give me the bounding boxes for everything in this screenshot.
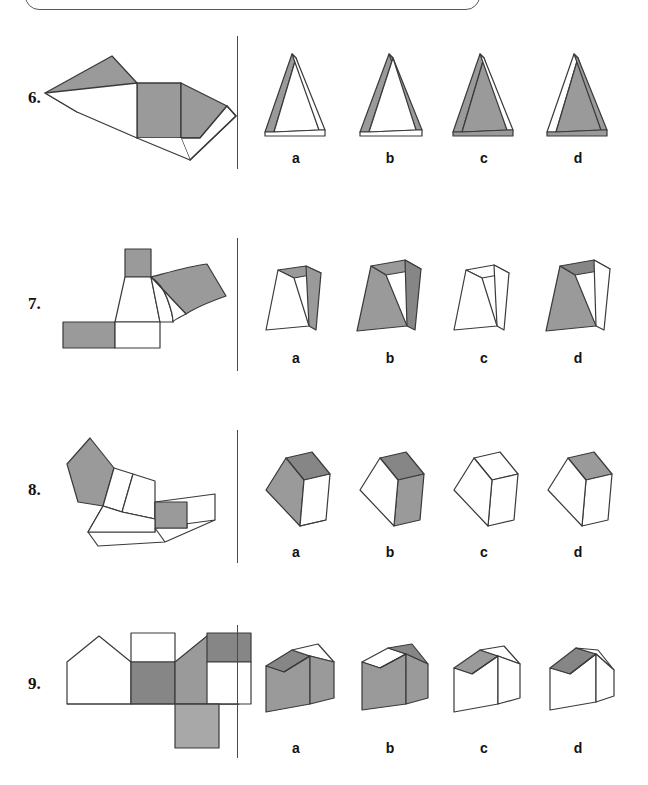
house-right-face: [310, 656, 334, 704]
option-label-9d: d: [566, 740, 590, 756]
net-figure-9: [58, 614, 248, 754]
option-figure-7b[interactable]: [353, 254, 433, 344]
question-number-8: 8.: [28, 480, 41, 500]
option-figure-6d[interactable]: [544, 50, 614, 142]
option-figure-8b[interactable]: [356, 448, 434, 540]
frustum-right-face: [494, 265, 509, 330]
row-divider: [237, 625, 238, 758]
option-label-8a: a: [284, 544, 308, 560]
net-face: [207, 662, 251, 704]
worksheet-page: 6.: [0, 0, 648, 785]
net-face: [131, 633, 175, 662]
option-figure-8a[interactable]: [262, 448, 340, 540]
option-label-7c: c: [472, 350, 496, 366]
frustum-front-face: [266, 270, 309, 330]
frustum-front-face: [357, 266, 407, 331]
net-figure-7: [40, 236, 240, 356]
row-divider: [237, 36, 238, 169]
net-figure-8: [40, 424, 240, 549]
option-figure-6b[interactable]: [356, 50, 426, 142]
net-face: [131, 662, 175, 704]
option-label-8d: d: [566, 544, 590, 560]
option-figure-9b[interactable]: [354, 640, 434, 730]
option-label-6d: d: [566, 150, 590, 166]
frustum-right-face: [594, 260, 610, 330]
net-face: [207, 633, 251, 662]
option-figure-9c[interactable]: [448, 640, 528, 730]
option-label-8c: c: [472, 544, 496, 560]
frustum-right-face: [405, 260, 421, 330]
question-number-6: 6.: [28, 88, 41, 108]
question-number-9: 9.: [28, 674, 41, 694]
option-label-7d: d: [566, 350, 590, 366]
option-label-9b: b: [378, 740, 402, 756]
option-label-7a: a: [284, 350, 308, 366]
house-right-face: [498, 656, 520, 704]
net-face: [67, 636, 131, 704]
option-label-6a: a: [284, 150, 308, 166]
net-face: [175, 704, 219, 748]
option-label-8b: b: [378, 544, 402, 560]
frustum-right-face: [306, 266, 321, 330]
frustum-front-face: [546, 266, 596, 331]
option-label-6b: b: [378, 150, 402, 166]
option-figure-7c[interactable]: [452, 258, 522, 343]
option-figure-9a[interactable]: [262, 640, 342, 730]
net-figure-6: [40, 38, 240, 163]
frustum-front-face: [454, 270, 497, 330]
option-label-9a: a: [284, 740, 308, 756]
option-figure-8d[interactable]: [544, 448, 622, 540]
option-label-9c: c: [472, 740, 496, 756]
net-face: [125, 249, 151, 277]
house-right-face: [596, 654, 614, 702]
option-figure-6a[interactable]: [262, 50, 332, 142]
option-figure-8c[interactable]: [450, 448, 528, 540]
question-number-7: 7.: [28, 294, 41, 314]
net-face: [45, 83, 137, 138]
prism-right-face: [582, 474, 612, 526]
prism-right-face: [394, 474, 424, 526]
option-label-6c: c: [472, 150, 496, 166]
prism-right-face: [300, 474, 330, 526]
row-divider: [237, 430, 238, 563]
option-figure-9d[interactable]: [542, 640, 622, 730]
net-face: [115, 322, 160, 348]
option-figure-6c[interactable]: [450, 50, 520, 142]
top-question-box-border: [25, 0, 480, 10]
net-face: [155, 502, 187, 528]
net-face: [63, 322, 115, 348]
option-figure-7a[interactable]: [264, 258, 334, 343]
net-face: [137, 83, 181, 138]
option-figure-7d[interactable]: [542, 254, 622, 344]
prism-right-face: [488, 474, 518, 526]
row-divider: [237, 238, 238, 371]
option-label-7b: b: [378, 350, 402, 366]
